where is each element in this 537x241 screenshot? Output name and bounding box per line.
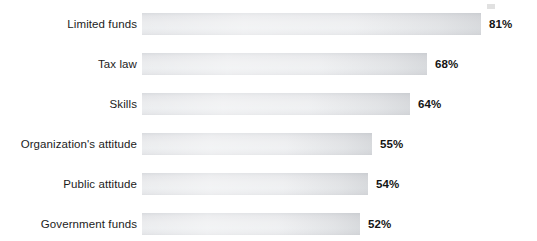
bar-row: Limited funds81% <box>0 13 537 35</box>
bar-row: Government funds52% <box>0 213 537 235</box>
bar-row: Skills64% <box>0 93 537 115</box>
bar <box>142 93 410 115</box>
category-label: Tax law <box>98 53 137 75</box>
bar-value-label: 54% <box>376 173 399 195</box>
bar <box>142 213 360 235</box>
category-label: Limited funds <box>67 13 137 35</box>
bar <box>142 13 481 35</box>
bar-row: Public attitude54% <box>0 173 537 195</box>
bar-value-label: 64% <box>418 93 441 115</box>
bar-value-label: 68% <box>435 53 458 75</box>
bar <box>142 133 372 155</box>
bar <box>142 53 427 75</box>
scan-artifact <box>487 4 495 9</box>
bar-row: Organization's attitude55% <box>0 133 537 155</box>
bar-value-label: 52% <box>368 213 391 235</box>
bar-value-label: 55% <box>380 133 403 155</box>
bar-chart: Limited funds81%Tax law68%Skills64%Organ… <box>0 0 537 241</box>
category-label: Organization's attitude <box>21 133 137 155</box>
bar-row: Tax law68% <box>0 53 537 75</box>
category-label: Skills <box>110 93 137 115</box>
bar <box>142 173 368 195</box>
bar-value-label: 81% <box>489 13 512 35</box>
category-label: Government funds <box>41 213 137 235</box>
category-label: Public attitude <box>63 173 137 195</box>
